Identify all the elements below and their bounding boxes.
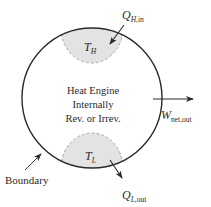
engine-title: Heat Engine (52, 84, 134, 98)
hot-reservoir-symbol: T (84, 40, 91, 54)
heat-out-label: QL,out (122, 186, 146, 204)
cold-reservoir-subscript: L (92, 156, 96, 165)
heat-in-label: QH,in (122, 6, 144, 24)
heat-in-subscript-rest: ,in (136, 15, 144, 24)
work-out-subscript: net,out (171, 115, 192, 124)
hot-reservoir-subscript: H (91, 47, 96, 56)
cold-reservoir-label: TL (85, 147, 96, 165)
heat-in-symbol: Q (122, 8, 131, 22)
work-out-symbol: W (161, 108, 171, 122)
boundary-label: Boundary (5, 175, 48, 186)
engine-description: Heat Engine Internally Rev. or Irrev. (52, 84, 134, 126)
cold-reservoir-symbol: T (85, 149, 92, 163)
heat-out-subscript-rest: ,out (135, 195, 146, 204)
heat-out-symbol: Q (122, 188, 131, 202)
boundary-pointer-line (25, 154, 41, 170)
hot-reservoir-label: TH (84, 38, 96, 56)
engine-internally-text: Internally (52, 98, 134, 112)
work-out-label: Wnet,out (161, 106, 192, 124)
engine-reversibility-text: Rev. or Irrev. (52, 112, 134, 126)
